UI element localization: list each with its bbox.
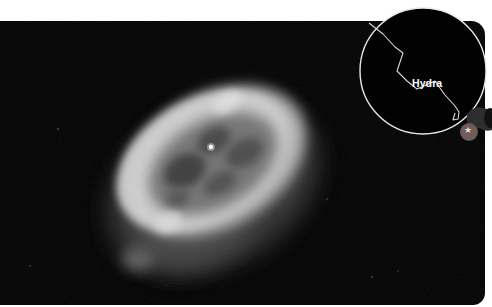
- constellation-label: Hydra: [412, 77, 442, 89]
- star-marker-icon: ★: [464, 125, 472, 135]
- constellation-inset: Hydra ★: [355, 2, 492, 162]
